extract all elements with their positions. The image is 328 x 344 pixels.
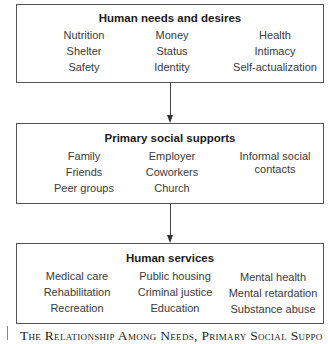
box-title-primary-social-supports: Primary social supports (17, 132, 323, 144)
arrow-head-icon (167, 235, 173, 243)
box-human-services: Human services Medical care Rehabilitati… (16, 243, 324, 324)
services-column-3: Mental health Mental retardation Substan… (221, 269, 325, 317)
list-item: Friends (39, 164, 129, 180)
list-item: Criminal justice (125, 284, 225, 300)
margin-rule (7, 326, 8, 340)
box-title-human-needs: Human needs and desires (17, 12, 323, 24)
list-item: Self-actualization (225, 59, 325, 75)
needs-column-2: Money Status Identity (127, 27, 217, 75)
supports-column-3: Informal social contacts (225, 150, 325, 176)
services-column-2: Public housing Criminal justice Educatio… (125, 268, 225, 316)
list-item: Mental health (221, 269, 325, 285)
list-item: Nutrition (39, 27, 129, 43)
list-item: Recreation (27, 300, 127, 316)
box-human-needs: Human needs and desires Nutrition Shelte… (16, 4, 324, 83)
figure-caption: The Relationship Among Needs, Primary So… (20, 328, 323, 344)
list-item: Peer groups (39, 180, 129, 196)
list-item: Employer (127, 148, 217, 164)
list-item: Education (125, 300, 225, 316)
list-item: Substance abuse (221, 301, 325, 317)
list-item: Informal social (225, 150, 325, 163)
supports-column-2: Employer Coworkers Church (127, 148, 217, 196)
list-item: contacts (225, 163, 325, 176)
arrow-supports-to-services (170, 204, 171, 236)
list-item: Public housing (125, 268, 225, 284)
box-title-human-services: Human services (17, 252, 323, 264)
box-primary-social-supports: Primary social supports Family Friends P… (16, 123, 324, 204)
list-item: Medical care (27, 268, 127, 284)
list-item: Identity (127, 59, 217, 75)
list-item: Intimacy (225, 43, 325, 59)
list-item: Health (225, 27, 325, 43)
list-item: Money (127, 27, 217, 43)
list-item: Safety (39, 59, 129, 75)
needs-column-3: Health Intimacy Self-actualization (225, 27, 325, 75)
list-item: Coworkers (127, 164, 217, 180)
arrow-needs-to-supports (170, 83, 171, 116)
needs-column-1: Nutrition Shelter Safety (39, 27, 129, 75)
list-item: Church (127, 180, 217, 196)
list-item: Shelter (39, 43, 129, 59)
list-item: Mental retardation (221, 285, 325, 301)
list-item: Family (39, 148, 129, 164)
arrow-head-icon (167, 115, 173, 123)
services-column-1: Medical care Rehabilitation Recreation (27, 268, 127, 316)
supports-column-1: Family Friends Peer groups (39, 148, 129, 196)
list-item: Status (127, 43, 217, 59)
list-item: Rehabilitation (27, 284, 127, 300)
